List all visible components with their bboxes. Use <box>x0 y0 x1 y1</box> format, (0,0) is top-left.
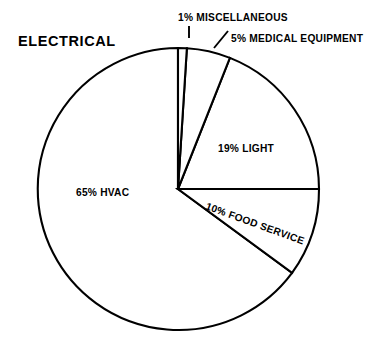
chart-title: ELECTRICAL <box>18 33 116 49</box>
pie-label-hvac: 65% HVAC <box>76 187 130 198</box>
pie-label-light: 19% LIGHT <box>218 143 275 154</box>
pie-label-miscellaneous: 1% MISCELLANEOUS <box>178 12 288 23</box>
pie-chart-figure: ELECTRICAL 1% MISCELLANEOUS 5% MEDICAL E… <box>0 0 378 354</box>
pie-chart-canvas: ELECTRICAL 1% MISCELLANEOUS 5% MEDICAL E… <box>0 0 378 354</box>
pie-label-medical-equipment: 5% MEDICAL EQUIPMENT <box>231 33 364 44</box>
leader-line-medical-equipment <box>214 31 228 48</box>
